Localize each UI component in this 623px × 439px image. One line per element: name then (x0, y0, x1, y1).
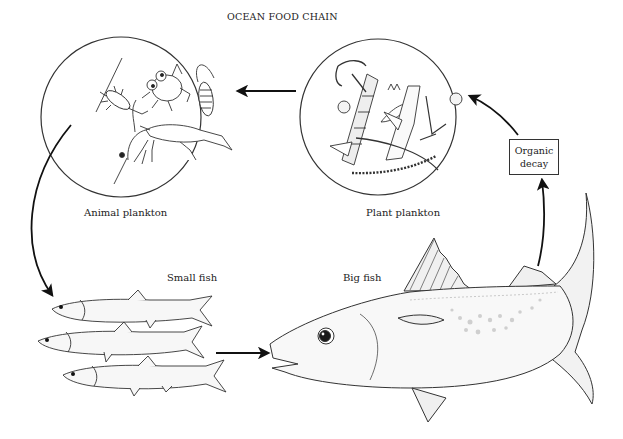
arrow-decay-to-plant (470, 96, 518, 135)
organic-decay-line2: decay (520, 157, 548, 170)
small-fish-icon (38, 322, 204, 362)
diagram-title: OCEAN FOOD CHAIN (227, 11, 338, 22)
animal-plankton-label: Animal plankton (84, 207, 167, 218)
big-fish-label: Big fish (343, 272, 381, 283)
food-chain-diagram: OCEAN FOOD CHAIN Animal plankton Plant p… (0, 0, 623, 439)
organic-decay-box: Organic decay (509, 139, 559, 175)
organic-decay-line1: Organic (515, 144, 554, 157)
diagram-canvas (0, 0, 623, 439)
plant-plankton-circle (300, 39, 462, 195)
small-fish-label: Small fish (167, 272, 217, 283)
small-fish-school (38, 290, 226, 396)
arrow-big-fish-to-decay (538, 180, 544, 266)
small-fish-icon (52, 290, 212, 328)
animal-plankton-circle (41, 37, 232, 197)
big-fish-icon (270, 193, 594, 422)
plant-plankton-label: Plant plankton (366, 207, 440, 218)
small-fish-icon (63, 356, 226, 396)
